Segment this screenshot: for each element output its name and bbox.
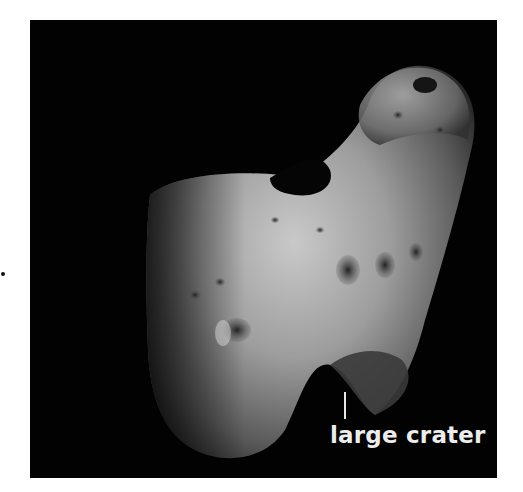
leader-line (344, 392, 346, 419)
crater-label: large crater (330, 422, 486, 448)
bullet-dot (1, 272, 5, 276)
asteroid-illustration (30, 20, 497, 478)
asteroid-photo: large crater (30, 20, 497, 478)
